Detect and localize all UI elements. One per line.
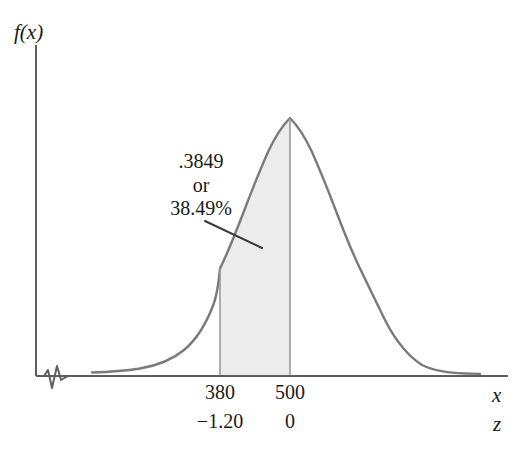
y-axis-label: f(x) xyxy=(14,22,43,43)
x-axis-name-label: x xyxy=(492,385,501,406)
z-tick-label-0: 0 xyxy=(255,411,325,431)
x-tick-label-500: 500 xyxy=(255,382,325,402)
z-axis-name-label: z xyxy=(493,414,501,435)
annotation-line-or: or xyxy=(148,174,254,198)
annotation-line-percent: 38.49% xyxy=(148,197,254,221)
normal-distribution-figure: f(x) .3849 or 38.49% 380 500 −1.20 0 x z xyxy=(0,0,516,455)
probability-annotation: .3849 or 38.49% xyxy=(148,150,254,221)
x-tick-label-380: 380 xyxy=(185,382,255,402)
z-tick-label-neg-1-20: −1.20 xyxy=(182,411,258,431)
annotation-line-proportion: .3849 xyxy=(148,150,254,174)
